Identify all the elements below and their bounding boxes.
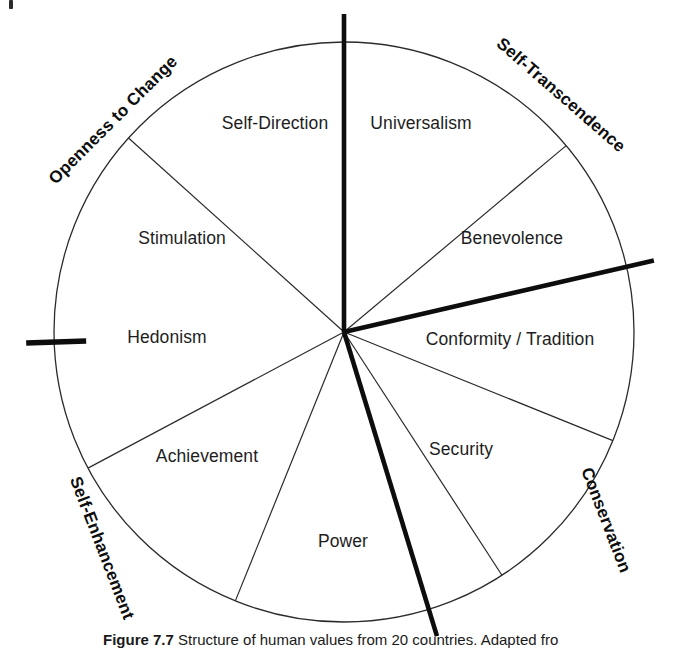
segment-label-hedonism: Hedonism — [127, 329, 207, 347]
figure-caption-number: Figure 7.7 — [103, 631, 174, 648]
segment-label-benevolence: Benevolence — [461, 230, 563, 248]
figure-canvas: Self-Direction Universalism Benevolence … — [0, 0, 674, 648]
segment-label-self-direction: Self-Direction — [222, 115, 328, 133]
segment-label-achievement: Achievement — [156, 448, 258, 466]
hedonism-stimulation-axis — [26, 341, 86, 343]
figure-caption-text: Structure of human values from 20 countr… — [178, 631, 558, 648]
figure-caption: Figure 7.7 Structure of human values fro… — [0, 631, 674, 648]
segment-label-power: Power — [318, 533, 368, 551]
segment-label-stimulation: Stimulation — [138, 230, 226, 248]
segment-label-security: Security — [429, 441, 493, 459]
segment-label-conformity-tradition: Conformity / Tradition — [426, 331, 595, 349]
segment-label-universalism: Universalism — [370, 115, 471, 133]
